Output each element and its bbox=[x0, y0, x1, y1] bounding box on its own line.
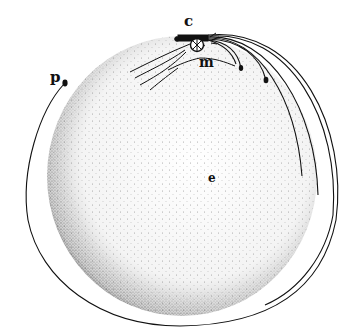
label-projectile: p bbox=[50, 70, 61, 85]
label-cannon: c bbox=[184, 14, 193, 29]
projectile-p-dot bbox=[62, 80, 67, 87]
earth-sphere bbox=[47, 36, 317, 316]
newton-cannon-diagram bbox=[0, 0, 350, 331]
label-mountain: m bbox=[199, 55, 214, 69]
label-earth-center: e bbox=[208, 172, 216, 184]
